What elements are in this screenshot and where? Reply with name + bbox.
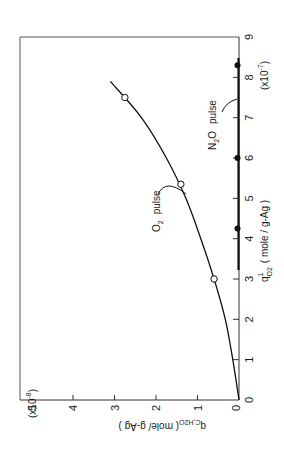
- filled-circle-marker: [235, 62, 241, 68]
- x-axis-scale: (x10-7): [257, 61, 270, 90]
- chart: 0123456789 012345 O2pulse N2Opulse q1O2(…: [0, 0, 284, 458]
- y-axis-ticks: 012345: [26, 395, 243, 411]
- x-axis-ticks: 0123456789: [233, 34, 255, 403]
- x-tick-label: 5: [243, 195, 255, 201]
- plot-frame: [20, 37, 239, 400]
- y-tick-label: 0: [230, 405, 242, 411]
- y-tick-label: 3: [109, 405, 121, 411]
- filled-circle-marker: [235, 155, 241, 161]
- y-tick-label: 2: [150, 405, 162, 411]
- x-tick-label: 0: [243, 397, 255, 403]
- filled-circle-marker: [235, 226, 241, 232]
- y-axis-scale: (x10-8): [25, 389, 38, 418]
- y-tick-label: 4: [67, 405, 79, 411]
- open-circle-marker: [178, 181, 184, 187]
- n2o-pulse-label: N2Opulse: [207, 100, 220, 150]
- x-tick-label: 6: [243, 155, 255, 161]
- x-tick-label: 2: [243, 316, 255, 322]
- x-tick-label: 7: [243, 115, 255, 121]
- x-axis-title: q1O2( mole / g-Ag ): [257, 200, 273, 282]
- n2o-pulse-pointer: [222, 99, 237, 112]
- x-tick-label: 9: [243, 34, 255, 40]
- x-tick-label: 1: [243, 357, 255, 363]
- o2-pulse-points: [122, 94, 218, 282]
- x-tick-label: 3: [243, 276, 255, 282]
- y-axis-title: qC,H2O( mole/ g-Ag ): [118, 419, 206, 432]
- x-tick-label: 4: [243, 236, 255, 242]
- x-tick-label: 8: [243, 74, 255, 80]
- o2-pulse-label: O2pulse: [151, 190, 164, 232]
- open-circle-marker: [122, 94, 128, 100]
- open-circle-marker: [211, 276, 217, 282]
- y-tick-label: 1: [192, 405, 204, 411]
- fitted-curve: [110, 81, 239, 400]
